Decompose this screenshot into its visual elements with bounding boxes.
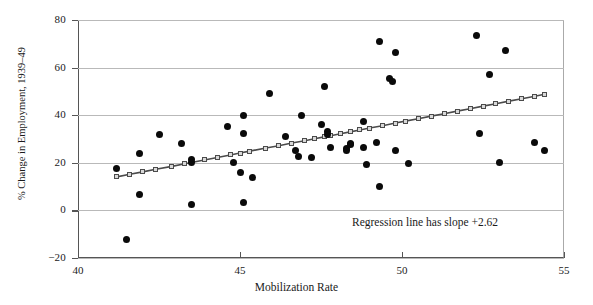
data-point [266, 90, 273, 97]
data-point [237, 169, 244, 176]
data-point [295, 153, 302, 160]
x-tick-mark [240, 252, 241, 258]
regression-marker [238, 151, 243, 156]
data-point [496, 159, 503, 166]
data-point [376, 183, 383, 190]
regression-marker [202, 157, 207, 162]
data-point [373, 139, 380, 146]
data-point [240, 199, 247, 206]
x-tick-label: 45 [215, 264, 265, 276]
regression-marker [169, 164, 174, 169]
data-point [476, 130, 483, 137]
regression-marker [153, 167, 158, 172]
x-tick-label: 55 [539, 264, 589, 276]
y-tick-mark [72, 68, 78, 69]
gridline-y [78, 68, 564, 69]
x-axis-title: Mobilization Rate [0, 281, 593, 293]
regression-marker [493, 101, 498, 106]
data-point [298, 112, 305, 119]
data-point [282, 133, 289, 140]
data-point [188, 201, 195, 208]
data-point [308, 154, 315, 161]
data-point [136, 150, 143, 157]
data-point [224, 123, 231, 130]
data-point [324, 131, 331, 138]
data-point [321, 83, 328, 90]
x-tick-label: 40 [53, 264, 103, 276]
regression-marker [348, 129, 353, 134]
regression-marker [429, 114, 434, 119]
y-tick-label: 0 [20, 203, 66, 215]
data-point [327, 144, 334, 151]
gridline-y [78, 258, 564, 259]
scatter-plot-figure: −20020406080 40455055 Regression line ha… [0, 0, 593, 305]
regression-marker [380, 123, 385, 128]
regression-marker [289, 141, 294, 146]
regression-marker [367, 126, 372, 131]
regression-marker [357, 127, 362, 132]
regression-marker [182, 161, 187, 166]
y-tick-label: 60 [20, 61, 66, 73]
y-tick-mark [72, 163, 78, 164]
regression-marker [532, 94, 537, 99]
data-point [473, 32, 480, 39]
data-point [318, 121, 325, 128]
regression-marker [276, 143, 281, 148]
data-point [240, 112, 247, 119]
regression-marker [393, 121, 398, 126]
y-tick-mark [72, 20, 78, 21]
x-tick-mark [564, 252, 565, 258]
y-tick-mark [72, 258, 78, 259]
data-point [360, 118, 367, 125]
x-tick-mark [78, 252, 79, 258]
regression-marker [403, 119, 408, 124]
x-tick-label: 50 [377, 264, 427, 276]
regression-marker [542, 92, 547, 97]
data-point [541, 147, 548, 154]
regression-marker [481, 104, 486, 109]
y-tick-label: 20 [20, 156, 66, 168]
regression-marker [114, 174, 119, 179]
regression-marker [468, 106, 473, 111]
regression-marker [302, 138, 307, 143]
data-point [136, 191, 143, 198]
data-point [240, 130, 247, 137]
data-point [486, 71, 493, 78]
gridline-y [78, 20, 564, 21]
y-tick-mark [72, 210, 78, 211]
gridline-y [78, 210, 564, 211]
regression-marker [140, 169, 145, 174]
slope-annotation: Regression line has slope +2.62 [352, 216, 498, 228]
regression-marker [416, 116, 421, 121]
regression-marker [338, 131, 343, 136]
data-point [360, 144, 367, 151]
y-tick-label: 40 [20, 108, 66, 120]
regression-marker [215, 155, 220, 160]
y-axis-title: % Change in Employment, 1939–49 [16, 24, 27, 224]
regression-marker [263, 146, 268, 151]
x-tick-mark [402, 252, 403, 258]
regression-marker [247, 149, 252, 154]
regression-marker [455, 109, 460, 114]
gridline-y [78, 115, 564, 116]
gridline-y [78, 163, 564, 164]
regression-marker [228, 152, 233, 157]
y-tick-label: −20 [20, 251, 66, 263]
data-point [156, 131, 163, 138]
regression-marker [127, 172, 132, 177]
regression-marker [506, 99, 511, 104]
regression-marker [312, 136, 317, 141]
data-point [347, 140, 354, 147]
y-tick-label: 80 [20, 13, 66, 25]
y-tick-mark [72, 115, 78, 116]
regression-marker [519, 96, 524, 101]
regression-marker [442, 111, 447, 116]
data-point [363, 161, 370, 168]
